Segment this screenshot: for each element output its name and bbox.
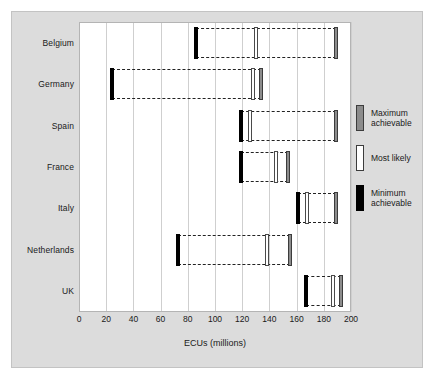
x-tick-160: 160 [290,314,304,324]
range-row [0,235,429,265]
range-box [112,69,262,99]
range-box [196,28,336,58]
marker-likely [248,110,252,142]
marker-likely [331,275,335,307]
range-row [0,276,429,306]
marker-max [334,27,338,59]
x-tick-40: 40 [129,314,138,324]
marker-max [334,110,338,142]
range-box [241,111,336,141]
x-tick-180: 180 [317,314,331,324]
range-row [0,28,429,58]
range-box [241,152,289,182]
range-row [0,193,429,223]
x-tick-80: 80 [183,314,192,324]
marker-likely [274,151,278,183]
marker-max [339,275,343,307]
marker-max [334,192,338,224]
x-tick-60: 60 [156,314,165,324]
marker-min [296,192,300,224]
marker-min [110,68,114,100]
range-row [0,152,429,182]
marker-likely [305,192,309,224]
range-box [306,276,341,306]
marker-max [259,68,263,100]
marker-min [176,234,180,266]
x-tick-100: 100 [208,314,222,324]
x-tick-200: 200 [344,314,358,324]
x-tick-140: 140 [262,314,276,324]
x-axis-title: ECUs (millions) [79,338,351,348]
range-row [0,111,429,141]
marker-max [286,151,290,183]
range-box [298,193,336,223]
marker-min [239,110,243,142]
marker-likely [251,68,255,100]
marker-max [288,234,292,266]
marker-min [304,275,308,307]
range-row [0,69,429,99]
x-tick-20: 20 [101,314,110,324]
range-box [178,235,290,265]
chart-figure: BelgiumGermanySpainFranceItalyNetherland… [0,0,429,375]
marker-min [194,27,198,59]
x-tick-120: 120 [235,314,249,324]
marker-likely [265,234,269,266]
marker-min [239,151,243,183]
x-axis-ticks: 020406080100120140160180200 [79,314,351,330]
marker-likely [254,27,258,59]
x-tick-0: 0 [77,314,82,324]
